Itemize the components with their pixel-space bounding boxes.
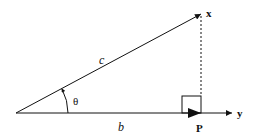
label-theta: θ — [73, 95, 78, 107]
label-y: y — [237, 107, 243, 119]
angle-arc — [62, 89, 68, 113]
label-x: x — [206, 7, 212, 19]
label-c: c — [99, 53, 105, 67]
vector-x-arrow — [16, 14, 201, 113]
projection-diagram: c θ b x y P — [0, 0, 254, 138]
label-p: P — [196, 122, 203, 134]
label-b: b — [118, 120, 124, 134]
